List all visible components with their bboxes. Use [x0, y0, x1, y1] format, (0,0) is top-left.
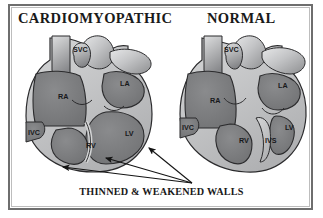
title-normal: NORMAL — [207, 10, 275, 27]
label-lv-cardio: LV — [125, 129, 134, 138]
label-rv-normal: RV — [239, 136, 249, 145]
label-svc-normal: SVC — [224, 45, 239, 54]
label-ivc-cardio: IVC — [28, 128, 40, 137]
label-ivs-normal: IVS — [265, 136, 277, 145]
label-ivc-normal: IVC — [182, 123, 194, 132]
label-ra-cardio: RA — [58, 92, 68, 101]
label-svc-cardio: SVC — [73, 45, 88, 54]
title-cardiomyopathic: CARDIOMYOPATHIC — [18, 10, 172, 27]
caption-thinned-weakened-walls: THINNED & WEAKENED WALLS — [0, 186, 323, 197]
heart-diagram-cardiomyopathic: SVC RA LA IVC RV LV — [12, 30, 162, 180]
label-rv-cardio: RV — [86, 141, 96, 150]
label-lv-normal: LV — [285, 123, 294, 132]
label-ra-normal: RA — [210, 96, 220, 105]
label-la-cardio: LA — [120, 79, 130, 88]
figure-cardiomyopathy-comparison: CARDIOMYOPATHIC NORMAL — [0, 0, 323, 218]
label-la-normal: LA — [278, 81, 288, 90]
heart-diagram-normal: SVC RA LA IVC RV IVS LV — [168, 30, 318, 180]
